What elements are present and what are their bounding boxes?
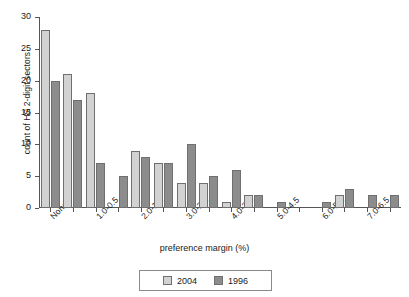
bar-1996-3: [119, 176, 128, 208]
bar-1996-1: [73, 100, 82, 208]
legend-label-2004: 2004: [177, 276, 197, 286]
x-tick-13: [344, 208, 345, 212]
bar-2004-5: [154, 163, 163, 208]
x-tick-11: [299, 208, 300, 212]
bar-1996-10: [277, 202, 286, 208]
bar-1996-2: [96, 163, 105, 208]
bar-2004-4: [131, 151, 140, 208]
bar-2004-7: [199, 183, 208, 208]
legend-swatch-1996: [214, 276, 223, 285]
bar-1996-15: [390, 195, 399, 208]
legend-item-1996: 1996: [214, 276, 248, 286]
bar-2004-1: [63, 74, 72, 208]
y-tick-label-15: 15: [9, 108, 31, 117]
bar-1996-13: [345, 189, 354, 208]
x-tick-3: [118, 208, 119, 212]
x-axis-title: preference margin (%): [0, 243, 409, 253]
bar-2004-6: [177, 183, 186, 208]
y-tick-15: [35, 113, 39, 114]
legend-swatch-2004: [163, 276, 172, 285]
bar-2004-9: [244, 195, 253, 208]
bar-1996-14: [368, 195, 377, 208]
bar-chart-figure: count of HS 2-digit sectors 051015202530…: [0, 0, 409, 297]
bar-1996-0: [51, 81, 60, 208]
bar-1996-5: [164, 163, 173, 208]
y-tick-label-20: 20: [9, 76, 31, 85]
x-tick-9: [254, 208, 255, 212]
y-tick-label-5: 5: [9, 171, 31, 180]
x-tick-15: [390, 208, 391, 212]
bar-2004-13: [335, 195, 344, 208]
y-tick-10: [35, 144, 39, 145]
x-tick-5: [163, 208, 164, 212]
y-tick-label-25: 25: [9, 44, 31, 53]
bar-1996-9: [254, 195, 263, 208]
x-tick-7: [209, 208, 210, 212]
legend-label-1996: 1996: [228, 276, 248, 286]
y-tick-30: [35, 17, 39, 18]
x-tick-1: [73, 208, 74, 212]
bar-2004-0: [41, 30, 50, 208]
bar-1996-8: [232, 170, 241, 208]
y-tick-label-10: 10: [9, 139, 31, 148]
y-tick-0: [35, 208, 39, 209]
bar-1996-7: [209, 176, 218, 208]
bar-2004-2: [86, 93, 95, 208]
bar-1996-12: [322, 202, 331, 208]
y-tick-20: [35, 81, 39, 82]
y-tick-25: [35, 49, 39, 50]
y-tick-label-30: 30: [9, 12, 31, 21]
bar-2004-8: [222, 202, 231, 208]
chart-legend: 2004 1996: [139, 270, 272, 291]
bar-1996-4: [141, 157, 150, 208]
plot-area: 051015202530 None1.0-0.52.0-1.53.0-2.54.…: [39, 17, 401, 208]
y-tick-label-0: 0: [9, 203, 31, 212]
bar-1996-6: [187, 144, 196, 208]
legend-item-2004: 2004: [163, 276, 197, 286]
y-tick-5: [35, 176, 39, 177]
